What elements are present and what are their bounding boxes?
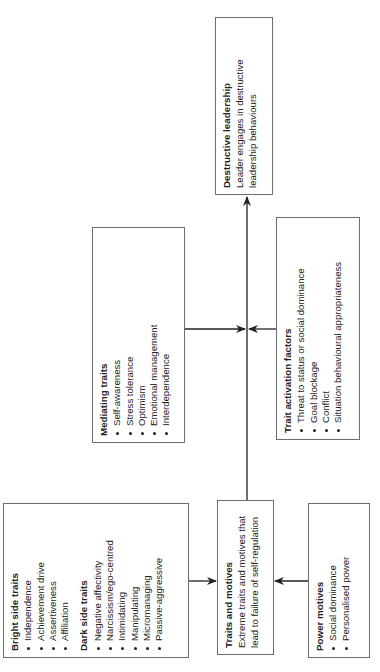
list-item: Interdependence — [160, 232, 172, 436]
trait-activation-list: Threat to status or social dominance Goa… — [295, 222, 344, 433]
traits-motives-title: Traits and motives — [223, 505, 235, 648]
mediating-traits-title: Mediating traits — [98, 232, 110, 436]
bright-side-list: Independence Achievement drive Assertive… — [22, 508, 71, 651]
mediating-traits-box: Mediating traits Self-awareness Stress t… — [92, 227, 185, 443]
list-item: Manipulating — [129, 508, 141, 651]
bright-dark-traits-box: Bright side traits Independence Achievem… — [3, 503, 189, 658]
list-item: Situation behavioural appropriateness — [332, 222, 344, 433]
trait-activation-title: Trait activation factors — [282, 222, 294, 433]
dark-side-list: Negative affectivity Narcissism/ego-cent… — [92, 508, 166, 651]
power-motives-title: Power motives — [314, 508, 326, 651]
list-item: Goal blockage — [308, 222, 320, 433]
list-item: Passive-aggressive — [153, 508, 165, 651]
list-item: Assertiveness — [47, 508, 59, 651]
destructive-leadership-desc-2: leadership behaviours — [247, 22, 259, 188]
list-item: Narcissism/ego-centred — [104, 508, 116, 651]
traits-motives-desc-2: lead to failure of self-regulation — [249, 505, 261, 648]
dark-side-title: Dark side traits — [78, 508, 90, 651]
list-item: Personalised power — [340, 508, 352, 651]
traits-motives-desc-1: Extreme traits and motives that — [236, 505, 248, 648]
list-item: Conflict — [320, 222, 332, 433]
list-item: Self-awareness — [111, 232, 123, 436]
traits-motives-box: Traits and motives Extreme traits and mo… — [217, 500, 274, 655]
list-item: Intimidating — [116, 508, 128, 651]
list-item: Threat to status or social dominance — [295, 222, 307, 433]
list-item: Achievement drive — [35, 508, 47, 651]
list-item: Independence — [22, 508, 34, 651]
bright-side-title: Bright side traits — [9, 508, 21, 651]
list-item: Stress tolerance — [124, 232, 136, 436]
trait-activation-box: Trait activation factors Threat to statu… — [276, 217, 360, 440]
list-item: Optimism — [136, 232, 148, 436]
mediating-traits-list: Self-awareness Stress tolerance Optimism… — [111, 232, 172, 436]
list-item: Micromanaging — [141, 508, 153, 651]
destructive-leadership-box: Destructive leadership Leader engages in… — [215, 17, 273, 195]
list-item: Affiliation — [59, 508, 71, 651]
list-item: Emotional management — [148, 232, 160, 436]
power-motives-box: Power motives Social dominance Personali… — [308, 503, 370, 658]
list-item: Negative affectivity — [92, 508, 104, 651]
list-item: Social dominance — [327, 508, 339, 651]
power-motives-list: Social dominance Personalised power — [327, 508, 352, 651]
destructive-leadership-desc-1: Leader engages in destructive — [234, 22, 246, 188]
destructive-leadership-title: Destructive leadership — [221, 22, 233, 188]
